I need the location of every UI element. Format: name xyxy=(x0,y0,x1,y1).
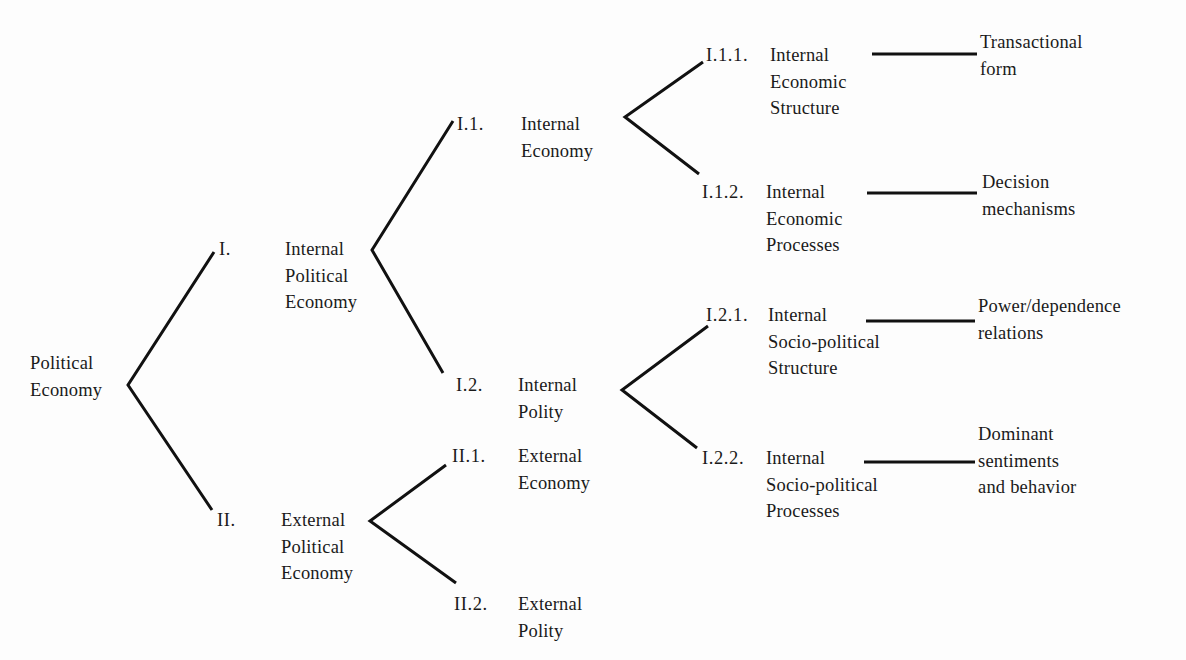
node-label-line: Structure xyxy=(768,355,880,382)
leaf-transactional-form: Transactional form xyxy=(980,29,1083,82)
leaf-label-line: mechanisms xyxy=(982,196,1075,223)
node-label-line: Internal xyxy=(770,42,847,69)
node-label-line: Internal xyxy=(766,445,878,472)
node-external-political-economy: External Political Economy xyxy=(281,507,353,587)
edge-root-to-I-and-II xyxy=(128,252,214,510)
node-label-line: Processes xyxy=(766,232,843,259)
leaf-label-line: Decision xyxy=(982,169,1075,196)
node-label-line: Internal xyxy=(518,372,577,399)
node-label-line: External xyxy=(518,443,590,470)
leaf-dominant-sentiments-and-behavior: Dominant sentiments and behavior xyxy=(978,421,1076,501)
leaf-label-line: relations xyxy=(978,320,1121,347)
political-economy-tree-diagram: Political Economy I. Internal Political … xyxy=(0,0,1186,660)
node-number-II1: II.1. xyxy=(452,443,486,470)
node-number-I11: I.1.1. xyxy=(706,42,748,69)
node-label-line: Internal xyxy=(521,111,593,138)
node-number-II: II. xyxy=(217,507,236,534)
node-label-line: Structure xyxy=(770,95,847,122)
leaf-label-line: Dominant xyxy=(978,421,1076,448)
node-label-line: Economy xyxy=(30,377,102,404)
leaf-label-line: Power/dependence xyxy=(978,293,1121,320)
node-label-line: Internal xyxy=(285,236,357,263)
node-number-I2: I.2. xyxy=(456,372,483,399)
leaf-label-line: sentiments xyxy=(978,448,1076,475)
node-label-line: Socio-political xyxy=(768,329,880,356)
node-internal-socio-political-processes: Internal Socio-political Processes xyxy=(766,445,878,525)
node-label-line: Economy xyxy=(285,289,357,316)
edge-I1-to-I11-and-I12 xyxy=(625,62,703,174)
node-number-I22: I.2.2. xyxy=(702,445,744,472)
node-label-line: Economy xyxy=(281,560,353,587)
node-label-line: External xyxy=(281,507,353,534)
node-label-line: Economy xyxy=(521,138,593,165)
node-label-line: Internal xyxy=(766,179,843,206)
node-internal-economic-processes: Internal Economic Processes xyxy=(766,179,843,259)
node-political-economy: Political Economy xyxy=(30,350,102,403)
node-internal-socio-political-structure: Internal Socio-political Structure xyxy=(768,302,880,382)
node-label-line: Processes xyxy=(766,498,878,525)
node-label-line: Economic xyxy=(766,206,843,233)
node-label-line: Economic xyxy=(770,69,847,96)
node-label-line: Political xyxy=(285,263,357,290)
node-label-line: Socio-political xyxy=(766,472,878,499)
node-internal-economy: Internal Economy xyxy=(521,111,593,164)
node-number-I1: I.1. xyxy=(457,111,484,138)
node-label-line: Political xyxy=(281,534,353,561)
node-label-line: Economy xyxy=(518,470,590,497)
leaf-label-line: Transactional xyxy=(980,29,1083,56)
leaf-label-line: and behavior xyxy=(978,474,1076,501)
node-label-line: Polity xyxy=(518,399,577,426)
leaf-power-dependence-relations: Power/dependence relations xyxy=(978,293,1121,346)
node-number-II2: II.2. xyxy=(454,591,488,618)
node-label-line: Internal xyxy=(768,302,880,329)
leaf-decision-mechanisms: Decision mechanisms xyxy=(982,169,1075,222)
edge-II-to-II1-and-II2 xyxy=(370,465,456,583)
edge-I-to-I1-and-I2 xyxy=(372,121,453,373)
node-number-I21: I.2.1. xyxy=(706,302,748,329)
node-internal-polity: Internal Polity xyxy=(518,372,577,425)
node-label-line: Political xyxy=(30,350,102,377)
node-number-I: I. xyxy=(219,236,231,263)
node-number-I12: I.1.2. xyxy=(702,179,744,206)
edge-I2-to-I21-and-I22 xyxy=(622,326,708,448)
node-internal-economic-structure: Internal Economic Structure xyxy=(770,42,847,122)
node-label-line: External xyxy=(518,591,582,618)
node-external-economy: External Economy xyxy=(518,443,590,496)
node-external-polity: External Polity xyxy=(518,591,582,644)
node-label-line: Polity xyxy=(518,618,582,645)
leaf-label-line: form xyxy=(980,56,1083,83)
node-internal-political-economy: Internal Political Economy xyxy=(285,236,357,316)
